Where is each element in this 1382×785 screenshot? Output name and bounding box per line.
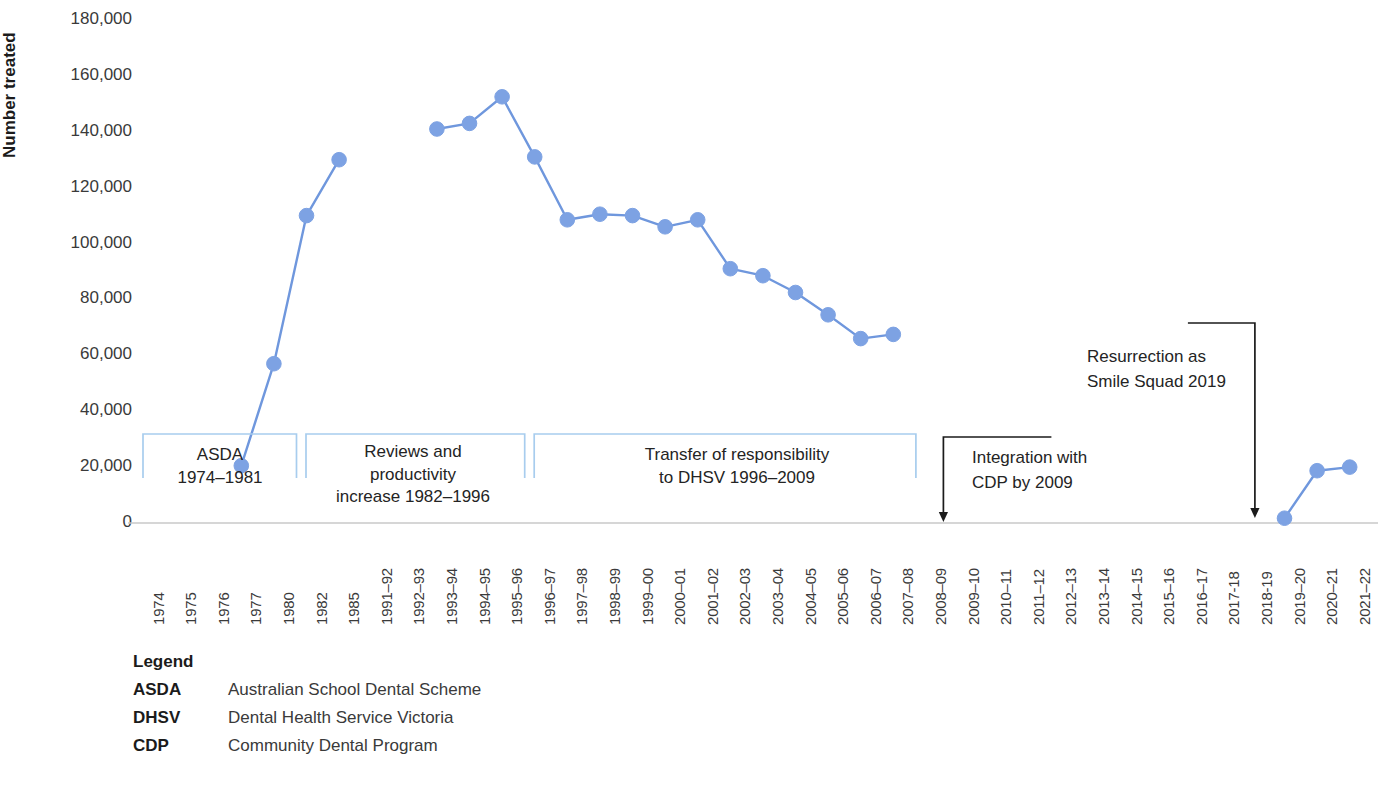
legend-abbreviation: ASDA — [133, 680, 228, 700]
callout-arrowhead-resurrection — [1250, 508, 1259, 518]
data-point[interactable] — [853, 331, 868, 346]
data-point[interactable] — [495, 90, 510, 105]
legend-description: Dental Health Service Victoria — [228, 708, 454, 728]
data-point[interactable] — [299, 208, 314, 223]
legend-abbreviation: DHSV — [133, 708, 228, 728]
annotation-resurrection-smile-squad: Resurrection as Smile Squad 2019 — [1087, 345, 1226, 394]
legend-description: Community Dental Program — [228, 736, 438, 756]
period-label-reviews: Reviews and productivity increase 1982–1… — [300, 441, 526, 509]
legend-item: ASDAAustralian School Dental Scheme — [133, 680, 481, 700]
data-point[interactable] — [1342, 460, 1357, 475]
data-point[interactable] — [430, 122, 445, 137]
data-point[interactable] — [267, 356, 282, 371]
data-point[interactable] — [723, 261, 738, 276]
data-point[interactable] — [332, 152, 347, 167]
legend-item: DHSVDental Health Service Victoria — [133, 708, 481, 728]
legend-title: Legend — [133, 652, 481, 672]
period-label-asda: ASDA 1974–1981 — [146, 444, 294, 489]
annotation-integration-cdp: Integration with CDP by 2009 — [972, 446, 1087, 495]
data-point[interactable] — [658, 220, 673, 235]
data-point[interactable] — [788, 285, 803, 300]
data-point[interactable] — [560, 213, 575, 228]
series-line — [437, 97, 893, 339]
data-point[interactable] — [886, 327, 901, 342]
data-point[interactable] — [527, 150, 542, 165]
data-point[interactable] — [625, 208, 640, 223]
data-point[interactable] — [593, 207, 608, 222]
data-point[interactable] — [462, 116, 477, 131]
legend: Legend ASDAAustralian School Dental Sche… — [133, 652, 481, 764]
series-line — [241, 160, 339, 466]
legend-item: CDPCommunity Dental Program — [133, 736, 481, 756]
legend-abbreviation: CDP — [133, 736, 228, 756]
period-label-transfer: Transfer of responsibility to DHSV 1996–… — [532, 444, 942, 489]
data-point[interactable] — [1310, 463, 1325, 478]
data-point[interactable] — [1277, 511, 1292, 526]
chart-figure: Number treated 180,000160,000140,000120,… — [0, 0, 1382, 785]
legend-rows: ASDAAustralian School Dental SchemeDHSVD… — [133, 680, 481, 756]
data-point[interactable] — [756, 268, 771, 283]
legend-description: Australian School Dental Scheme — [228, 680, 481, 700]
callout-arrowhead-integration-cdp — [939, 512, 948, 522]
data-point[interactable] — [690, 213, 705, 228]
data-point[interactable] — [821, 308, 836, 323]
